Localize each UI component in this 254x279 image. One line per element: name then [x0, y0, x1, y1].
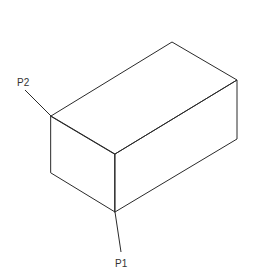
p2-label: P2: [17, 77, 30, 88]
box-left-face: [51, 116, 115, 212]
p1-label: P1: [115, 258, 128, 269]
box-top-face: [51, 42, 237, 154]
p1-leader-line: [115, 212, 121, 252]
box-right-face: [115, 80, 237, 212]
box-diagram: P2 P1: [0, 0, 254, 279]
p2-leader-line: [25, 90, 51, 116]
